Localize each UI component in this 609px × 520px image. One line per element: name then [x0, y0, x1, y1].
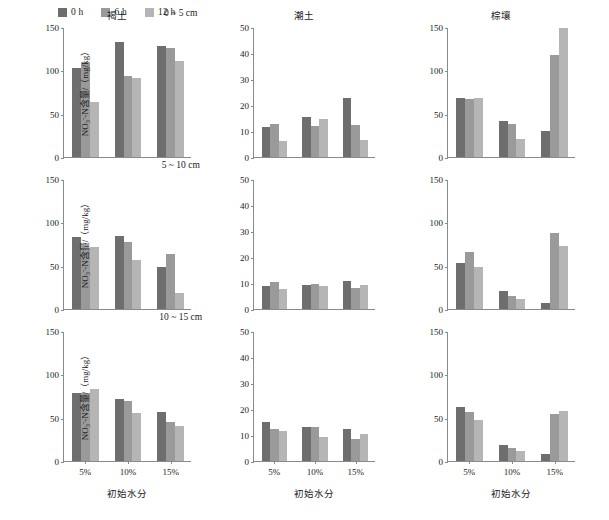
y-axis-tick-label: 150: [430, 176, 444, 185]
x-axis-title: 初始水分: [107, 486, 147, 500]
chart-panel: 01020304050潮土: [253, 28, 375, 158]
bar: [508, 448, 517, 461]
y-axis-tick-label: 50: [434, 262, 443, 271]
bar-group: [115, 332, 141, 461]
bar: [465, 412, 474, 461]
bar: [474, 420, 483, 461]
y-axis-tick-label: 50: [50, 110, 59, 119]
x-axis-tick: [171, 461, 172, 464]
bar-slot: [132, 28, 141, 157]
bar-slot: [351, 332, 359, 461]
y-axis-tick: [251, 284, 254, 285]
y-axis-tick: [251, 310, 254, 311]
bar-slot: [279, 180, 287, 309]
bar-slot: [270, 28, 278, 157]
y-axis-tick: [251, 132, 254, 133]
bar: [351, 125, 359, 157]
y-axis-tick: [251, 106, 254, 107]
y-axis-tick-label: 50: [240, 24, 249, 33]
y-axis-tick-label: 0: [439, 154, 444, 163]
bar-group: [302, 28, 327, 157]
y-axis-tick: [251, 410, 254, 411]
bar-group: [499, 180, 525, 309]
bar: [157, 46, 166, 157]
bar-slot: [499, 28, 508, 157]
y-axis-tick-label: 100: [46, 67, 60, 76]
x-axis-tick-label: 5%: [463, 467, 475, 477]
bar: [175, 61, 184, 157]
y-axis-tick: [445, 158, 448, 159]
y-axis-tick: [445, 375, 448, 376]
bar: [302, 285, 310, 309]
y-axis-tick-label: 50: [434, 414, 443, 423]
bar-slot: [550, 332, 559, 461]
bar-slot: [550, 28, 559, 157]
bar-slot: [456, 180, 465, 309]
bar-slot: [360, 28, 368, 157]
bar-slot: [343, 180, 351, 309]
y-axis-tick-label: 150: [46, 176, 60, 185]
bar: [360, 140, 368, 157]
y-axis-tick: [251, 258, 254, 259]
bar-slot: [90, 28, 99, 157]
bar-slot: [132, 332, 141, 461]
bar-slot: [559, 180, 568, 309]
bar: [132, 413, 141, 461]
y-axis-tick: [251, 180, 254, 181]
chart-panel: 0501001505 ~ 10 cmNO3--N含量/（mg/kg）: [63, 180, 191, 310]
bar-group: [343, 332, 368, 461]
y-axis-tick-label: 0: [245, 154, 250, 163]
bar-group: [456, 28, 482, 157]
y-axis-tick-label: 100: [430, 371, 444, 380]
bar: [311, 284, 319, 309]
bar-slot: [516, 28, 525, 157]
bar-slot: [319, 180, 327, 309]
bar: [360, 434, 368, 461]
plot-area: 01020304050: [253, 28, 375, 158]
bar-group: [157, 28, 183, 157]
plot-area: 0501001505%10%15%: [447, 332, 575, 462]
panel-soil-title: 潮土: [294, 8, 314, 22]
x-axis-tick: [128, 461, 129, 464]
bar-slot: [541, 180, 550, 309]
bar-slot: [115, 180, 124, 309]
bar: [157, 267, 166, 309]
bar: [541, 454, 550, 461]
y-axis-tick-label: 10: [240, 432, 249, 441]
bar-slot: [175, 28, 184, 157]
y-axis-tick: [61, 310, 64, 311]
bar: [559, 411, 568, 461]
bar: [360, 285, 368, 309]
bar-slot: [499, 332, 508, 461]
y-axis-tick: [445, 28, 448, 29]
legend-swatch-icon: [145, 8, 154, 17]
bar: [465, 99, 474, 157]
bar-group: [262, 332, 287, 461]
bar: [474, 98, 483, 157]
chart-panel: 050100150: [447, 180, 575, 310]
bar-slot: [508, 28, 517, 157]
bar-slot: [279, 28, 287, 157]
bar-group: [157, 332, 183, 461]
y-axis-tick: [445, 267, 448, 268]
bar-slot: [474, 332, 483, 461]
legend-item: 0 h: [58, 7, 83, 17]
bar: [343, 281, 351, 309]
y-axis-tick-label: 100: [46, 219, 60, 228]
bar-slot: [175, 180, 184, 309]
bar: [311, 427, 319, 461]
chart-panel: 0501001505%10%15%10 ~ 15 cm初始水分NO3--N含量/…: [63, 332, 191, 462]
y-axis-tick-label: 30: [240, 228, 249, 237]
bar-slot: [508, 180, 517, 309]
bar: [516, 139, 525, 157]
bar: [124, 76, 133, 157]
y-axis-tick-label: 0: [245, 306, 250, 315]
x-axis-tick: [356, 461, 357, 464]
bar-group: [541, 28, 567, 157]
y-axis-tick: [445, 223, 448, 224]
plot-area: 050100150: [447, 180, 575, 310]
y-axis-tick-label: 20: [240, 254, 249, 263]
bar: [90, 102, 99, 157]
y-axis-tick: [445, 71, 448, 72]
bar-slot: [302, 332, 310, 461]
